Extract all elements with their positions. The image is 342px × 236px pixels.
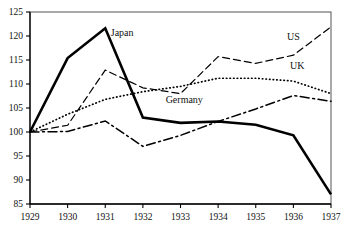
y-tick-label: 115	[9, 55, 23, 65]
plot-frame-rect	[30, 12, 331, 204]
y-tick-label: 85	[14, 199, 24, 209]
series-label-japan: Japan	[111, 27, 134, 38]
series-group	[30, 27, 331, 195]
y-tick-label: 125	[9, 7, 24, 17]
y-tick-label: 105	[9, 103, 24, 113]
x-tick-label: 1936	[284, 212, 303, 222]
x-tick-label: 1929	[21, 212, 40, 222]
plot-frame	[30, 12, 331, 204]
y-tick-label: 110	[9, 79, 23, 89]
y-tick-label: 90	[14, 175, 24, 185]
y-tick-label: 100	[9, 127, 24, 137]
line-chart: 8590951001051101151201251929193019311932…	[0, 0, 342, 236]
x-tick-label: 1930	[58, 212, 77, 222]
x-tick-label: 1935	[246, 212, 265, 222]
series-label-germany: Germany	[166, 94, 203, 105]
y-axis: 859095100105110115120125	[9, 7, 30, 209]
y-tick-label: 95	[14, 151, 24, 161]
x-axis: 192919301931193219331934193519361937	[21, 204, 341, 222]
x-tick-label: 1934	[209, 212, 228, 222]
x-tick-label: 1931	[96, 212, 115, 222]
x-tick-label: 1933	[171, 212, 190, 222]
series-label-us: US	[287, 31, 300, 42]
x-tick-label: 1937	[322, 212, 341, 222]
series-line-us	[30, 27, 331, 132]
x-tick-label: 1932	[133, 212, 152, 222]
y-tick-label: 120	[9, 31, 24, 41]
chart-canvas: 8590951001051101151201251929193019311932…	[0, 0, 342, 236]
series-label-uk: UK	[290, 60, 305, 71]
